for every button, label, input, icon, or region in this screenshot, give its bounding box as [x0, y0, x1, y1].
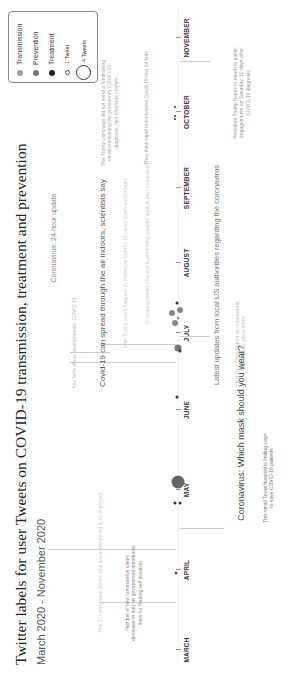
- annotation: President Trump hopes to return to publi…: [232, 47, 251, 139]
- annotation: Latest updates from local US authorities…: [212, 165, 221, 385]
- data-point[interactable]: [179, 502, 182, 505]
- tick: [176, 649, 181, 650]
- data-point[interactable]: [175, 572, 178, 575]
- transmission-dot-icon: [17, 70, 23, 76]
- data-point[interactable]: [169, 310, 175, 316]
- legend-item-four-tweets: 4 Tweets: [76, 40, 91, 80]
- small-circle-icon: [65, 70, 70, 75]
- tick: [176, 262, 181, 263]
- month-label-june: JUNE: [183, 401, 190, 419]
- data-point[interactable]: [177, 317, 180, 320]
- legend-label: Treatment: [48, 33, 55, 65]
- legend-item-treatment: Treatment: [48, 33, 55, 76]
- data-point[interactable]: [177, 307, 183, 313]
- legend-label: Transmission: [16, 24, 23, 65]
- tick: [176, 37, 181, 38]
- annotation: Coronavirus: 24-hour update: [50, 193, 59, 282]
- month-label-november: NOVEMBER: [183, 18, 190, 57]
- legend-item-prevention: Prevention: [32, 32, 39, 76]
- annotation: With Trump event happens in Florida as C…: [122, 178, 128, 348]
- annotation: This small Texas hospital is finding way…: [262, 433, 275, 522]
- month-label-may: MAY: [183, 483, 190, 497]
- data-point[interactable]: [174, 115, 176, 117]
- data-point[interactable]: [179, 350, 182, 353]
- annotation: Number of new coronavirus cases decrease…: [124, 545, 143, 640]
- chart-subtitle: March 2020 - November 2020: [35, 519, 47, 665]
- leader-line: [180, 336, 210, 337]
- annotation: They think rapid non-invasive Covid-19 t…: [143, 51, 149, 164]
- tick: [176, 111, 181, 112]
- annotation: Covid-19 can spread through the air indo…: [98, 179, 108, 387]
- chart-title: Twitter labels for user Tweets on COVID-…: [12, 144, 30, 665]
- month-label-october: OCTOBER: [183, 95, 190, 129]
- large-circle-icon: [76, 65, 91, 80]
- chart-stage: Twitter labels for user Tweets on COVID-…: [0, 0, 292, 673]
- leader-line: [180, 528, 224, 529]
- month-label-april: APRIL: [183, 560, 190, 581]
- prevention-dot-icon: [33, 70, 39, 76]
- tick: [176, 409, 181, 410]
- leader-line: [180, 61, 210, 62]
- data-point[interactable]: [174, 106, 176, 108]
- leader-line: [48, 549, 176, 550]
- treatment-dot-icon: [49, 70, 55, 76]
- tick: [176, 187, 181, 188]
- month-label-march: MARCH: [183, 637, 190, 662]
- annotation: The Trump campaign did not send a fundra…: [100, 60, 119, 166]
- leader-line: [100, 344, 176, 345]
- legend: Transmission Prevention Treatment 1 Twee…: [8, 11, 98, 83]
- data-point[interactable]: [172, 320, 178, 326]
- month-label-july: JULY: [183, 325, 190, 342]
- legend-label: Prevention: [32, 32, 39, 65]
- leader-line: [70, 362, 176, 363]
- data-point[interactable]: [174, 118, 176, 120]
- annotation: Key facts about asymptomatic COVID-19: [71, 297, 77, 388]
- month-label-august: AUGUST: [183, 249, 190, 278]
- legend-item-transmission: Transmission: [16, 24, 23, 76]
- legend-label: 1 Tweet: [64, 45, 70, 64]
- annotation: Coronavirus: Which mask should you wear?: [236, 345, 247, 521]
- timeline-axis: [178, 8, 179, 663]
- tick: [176, 569, 181, 570]
- legend-label: 4 Tweets: [81, 40, 87, 62]
- data-point[interactable]: [174, 502, 177, 505]
- annotation: This 3-D simulation shows why social dis…: [97, 493, 103, 634]
- data-point[interactable]: [172, 476, 185, 489]
- month-label-september: SEPTEMBER: [183, 167, 190, 209]
- legend-item-one-tweet: 1 Tweet: [64, 45, 70, 76]
- data-point[interactable]: [176, 302, 179, 305]
- tick: [176, 332, 181, 333]
- tick: [176, 489, 181, 490]
- data-point[interactable]: [176, 396, 179, 399]
- annotation: Is wearing masks effective in protecting…: [144, 162, 150, 324]
